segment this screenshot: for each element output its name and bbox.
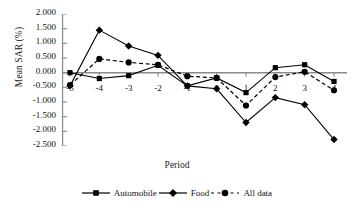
chart-legend: AutomobileFoodAll data <box>0 187 354 199</box>
data-point <box>96 26 103 33</box>
data-point <box>273 65 278 70</box>
x-tick-label: -1 <box>184 83 192 93</box>
x-tick-label: 1 <box>244 83 249 93</box>
legend-item-all-data[interactable]: All data <box>210 187 273 199</box>
legend-key-circle-icon <box>210 187 240 199</box>
y-axis-tick-labels: 2.0001.5001.0000.5000.000-0.500-1.000-1.… <box>8 12 56 146</box>
y-tick-label: -2.500 <box>8 140 56 149</box>
legend-label: All data <box>242 188 273 198</box>
y-tick-label: -1.500 <box>8 110 56 119</box>
y-tick-label: 1.000 <box>8 37 56 46</box>
data-point <box>126 59 132 65</box>
chart-figure: Mean SAR (%) 2.0001.5001.0000.5000.000-0… <box>0 0 354 219</box>
data-point <box>125 42 132 49</box>
data-point <box>67 70 72 75</box>
data-point <box>126 73 131 78</box>
x-tick-label: 0 <box>214 83 219 93</box>
x-tick-label: 3 <box>302 83 307 93</box>
legend-label: Automobile <box>113 188 158 198</box>
x-tick-label: 4 <box>332 83 337 93</box>
legend-key-square-icon <box>81 187 111 199</box>
data-point <box>243 102 249 108</box>
plot-svg <box>62 14 347 146</box>
data-point <box>302 69 308 75</box>
x-tick-label: -4 <box>96 83 104 93</box>
data-point <box>155 62 161 68</box>
x-tick-label: -3 <box>125 83 133 93</box>
legend-key-diamond-icon <box>158 187 188 199</box>
data-point <box>184 73 190 79</box>
data-point <box>302 62 307 67</box>
y-tick-label: 0.000 <box>8 66 56 75</box>
x-axis-title: Period <box>0 160 354 170</box>
y-tick-label: -1.000 <box>8 96 56 105</box>
y-tick-label: 1.500 <box>8 22 56 31</box>
x-tick-label: -2 <box>154 83 162 93</box>
y-tick-label: -2.000 <box>8 125 56 134</box>
data-point <box>272 74 278 80</box>
y-tick-label: 0.500 <box>8 52 56 61</box>
legend-item-food[interactable]: Food <box>158 187 211 199</box>
y-tick-label: -0.500 <box>8 81 56 90</box>
x-axis-tick-labels: -5-4-3-2-101234 <box>62 83 347 97</box>
legend-item-automobile[interactable]: Automobile <box>81 187 158 199</box>
y-tick-label: 2.000 <box>8 8 56 17</box>
data-point <box>96 56 102 62</box>
x-tick-label: -5 <box>66 83 74 93</box>
x-tick-label: 2 <box>273 83 278 93</box>
plot-area <box>62 14 347 146</box>
data-point <box>97 76 102 81</box>
legend-label: Food <box>190 188 211 198</box>
data-point <box>214 75 220 81</box>
